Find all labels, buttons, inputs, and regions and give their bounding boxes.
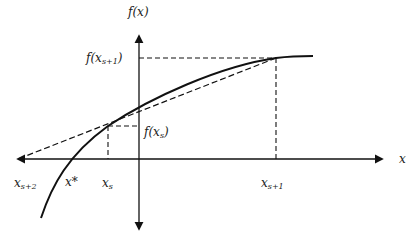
x-axis-label: x [399, 153, 406, 165]
f-x-s1-label: f(xs+1) [86, 52, 122, 66]
f-x-s-label: f(xs) [144, 126, 169, 140]
x-s2-label: xs+2 [14, 177, 37, 191]
y-axis-label: f(x) [128, 6, 149, 18]
secant-method-diagram [0, 0, 417, 240]
x-star-label: x* [65, 176, 78, 188]
x-s1-label: xs+1 [261, 177, 284, 191]
secant-line [18, 58, 276, 159]
x-s-label: xs [102, 177, 113, 191]
function-curve [41, 56, 313, 218]
